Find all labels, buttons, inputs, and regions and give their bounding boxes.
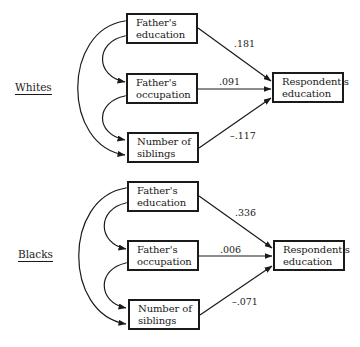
path-coefficient: –.117: [230, 131, 256, 141]
correlation-arc-outer: [78, 21, 125, 155]
path-arrow: [200, 266, 272, 315]
correlation-arc-upper: [104, 203, 126, 249]
node-label: Number of: [137, 136, 197, 148]
node-label: Father's: [136, 17, 196, 29]
node-label: siblings: [137, 148, 197, 160]
node-label: siblings: [138, 315, 198, 327]
node-label: Father's: [136, 77, 196, 89]
correlation-arc-upper: [103, 36, 126, 82]
correlation-arc-lower: [104, 263, 126, 308]
path-arrows: [0, 0, 360, 347]
node-label: Father's: [137, 185, 197, 197]
node-fathers-education: Father's education: [126, 13, 198, 44]
correlation-arc-outer: [79, 188, 126, 324]
path-coefficient: .181: [234, 39, 255, 49]
node-label: education: [283, 256, 343, 268]
node-label: occupation: [136, 89, 196, 101]
node-label: education: [136, 29, 196, 41]
node-number-of-siblings: Number of siblings: [128, 299, 200, 330]
node-label: Father's: [137, 244, 197, 256]
path-coefficient: –.071: [232, 297, 258, 307]
node-respondents-education: Respondent's education: [273, 240, 345, 271]
node-label: education: [282, 88, 342, 100]
path-coefficient: .006: [220, 245, 241, 255]
path-coefficient: .091: [219, 77, 240, 87]
node-label: occupation: [137, 256, 197, 268]
group-label-blacks: Blacks: [18, 248, 53, 262]
node-respondents-education: Respondent's education: [272, 72, 344, 103]
node-fathers-occupation: Father's occupation: [127, 240, 199, 271]
path-arrow: [199, 196, 272, 248]
node-label: Respondent's: [282, 76, 342, 88]
node-label: Number of: [138, 303, 198, 315]
correlation-arc-lower: [103, 96, 126, 140]
node-label: Respondent's: [283, 244, 343, 256]
path-arrow: [198, 28, 271, 81]
path-coefficient: .336: [235, 208, 256, 218]
group-label-whites: Whites: [15, 81, 52, 95]
node-fathers-occupation: Father's occupation: [126, 73, 198, 104]
node-label: education: [137, 197, 197, 209]
node-fathers-education: Father's education: [127, 181, 199, 212]
node-number-of-siblings: Number of siblings: [127, 132, 199, 163]
